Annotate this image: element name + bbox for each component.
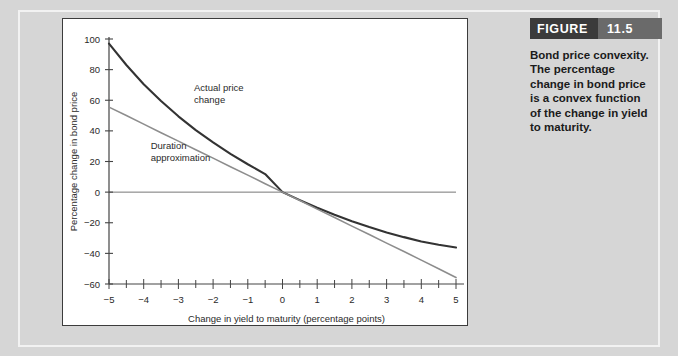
- y-tick-label: −60: [84, 279, 100, 290]
- x-tick-label: 3: [384, 294, 389, 305]
- chart-panel: −60−40−20020406080100−5−4−3−2−1012345Cha…: [62, 18, 468, 326]
- figure-badge-word: FIGURE: [530, 22, 588, 36]
- x-tick-label: 4: [419, 294, 424, 305]
- frame-border-bottom: [18, 345, 660, 347]
- y-tick-label: 20: [89, 156, 100, 167]
- x-tick-label: 0: [280, 294, 285, 305]
- y-tick-label: −40: [84, 248, 100, 259]
- y-tick-label: 100: [84, 34, 100, 45]
- x-tick-label: 2: [349, 294, 354, 305]
- x-tick-label: −4: [138, 294, 149, 305]
- x-tick-label: 1: [315, 294, 320, 305]
- figure-caption-text: Bond price convexity. The percentage cha…: [530, 48, 650, 134]
- y-tick-label: 80: [89, 64, 100, 75]
- x-tick-label: −3: [173, 294, 184, 305]
- x-tick-label: 5: [453, 294, 458, 305]
- frame-border-left: [18, 10, 20, 347]
- figure-page: −60−40−20020406080100−5−4−3−2−1012345Cha…: [0, 0, 678, 356]
- x-tick-label: −1: [242, 294, 253, 305]
- x-tick-label: −2: [208, 294, 219, 305]
- x-axis-title: Change in yield to maturity (percentage …: [188, 313, 385, 324]
- curve-annotation-0: Actual price: [194, 82, 244, 93]
- figure-badge-number: 11.5: [598, 18, 662, 39]
- curve-annotation-0-line2: change: [194, 94, 225, 105]
- y-tick-label: 60: [89, 95, 100, 106]
- curve-annotation-1: Duration: [151, 140, 187, 151]
- y-tick-label: 0: [95, 187, 100, 198]
- x-tick-label: −5: [104, 294, 115, 305]
- curve-annotation-1-line2: approximation: [151, 152, 211, 163]
- figure-caption-block: FIGURE 11.5 Bond price convexity. The pe…: [530, 18, 662, 134]
- figure-badge: FIGURE 11.5: [530, 18, 662, 39]
- frame-border-top: [18, 10, 660, 12]
- y-tick-label: −20: [84, 217, 100, 228]
- convexity-chart: −60−40−20020406080100−5−4−3−2−1012345Cha…: [63, 19, 469, 327]
- y-tick-label: 40: [89, 125, 100, 136]
- y-axis-title: Percentage change in bond price: [68, 92, 79, 231]
